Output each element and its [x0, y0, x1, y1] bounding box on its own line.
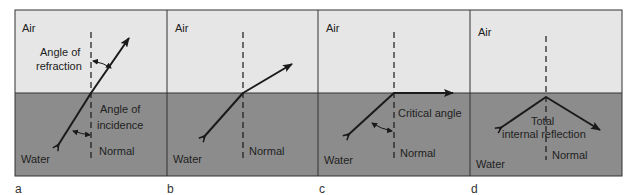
normal-label: Normal: [400, 147, 435, 159]
normal-label: Normal: [99, 145, 134, 157]
water-label: Water: [21, 153, 50, 165]
refraction-diagram: Air Water Angle of refraction Angle of i…: [0, 0, 633, 195]
air-label: Air: [478, 26, 492, 38]
air-label: Air: [22, 22, 36, 34]
air-label: Air: [326, 22, 340, 34]
angle-of-incidence-label: Angle of: [100, 103, 141, 115]
angle-of-refraction-label: Angle of: [40, 46, 81, 58]
angle-of-refraction-label: refraction: [36, 60, 82, 72]
normal-label: Normal: [552, 149, 587, 161]
panel-caption: b: [167, 182, 174, 195]
water-label: Water: [476, 158, 505, 170]
total-internal-reflection-label: Total: [531, 115, 554, 127]
air-label: Air: [175, 22, 189, 34]
total-internal-reflection-label: internal reflection: [502, 128, 586, 140]
water-label: Water: [324, 154, 353, 166]
panel-caption: a: [15, 182, 22, 195]
panel-caption: d: [471, 182, 478, 195]
panel-caption: c: [319, 182, 325, 195]
water-label: Water: [173, 153, 202, 165]
angle-of-incidence-label: incidence: [97, 119, 143, 131]
normal-label: Normal: [249, 145, 284, 157]
critical-angle-label: Critical angle: [398, 107, 462, 119]
